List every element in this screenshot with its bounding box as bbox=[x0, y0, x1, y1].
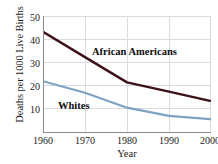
y-tick-label: 30 bbox=[20, 59, 40, 69]
plot-svg bbox=[43, 16, 211, 133]
plot-area bbox=[43, 16, 211, 133]
x-tick-label: 1980 bbox=[107, 136, 147, 146]
series-annotation-whites: Whites bbox=[58, 100, 90, 111]
x-tick-label: 1960 bbox=[23, 136, 63, 146]
vertical-gridlines bbox=[44, 16, 211, 133]
x-tick-label: 2000 bbox=[190, 136, 218, 146]
x-axis-label: Year bbox=[43, 148, 211, 159]
y-tick-label: 20 bbox=[20, 82, 40, 92]
infant-mortality-line-chart: Deaths per 1000 Live Births 50 40 30 20 … bbox=[0, 0, 218, 164]
y-tick-label: 10 bbox=[20, 105, 40, 115]
series-line-african-americans bbox=[43, 32, 210, 101]
y-tick-label: 40 bbox=[20, 36, 40, 46]
series-annotation-african-americans: African Americans bbox=[92, 46, 177, 57]
x-tick-label: 1990 bbox=[149, 136, 189, 146]
y-tick-label: 50 bbox=[20, 13, 40, 23]
x-tick-label: 1970 bbox=[65, 136, 105, 146]
